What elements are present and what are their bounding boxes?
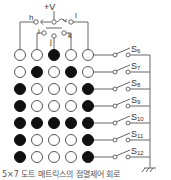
led-off xyxy=(49,152,60,163)
switch-label: S8 xyxy=(131,78,141,88)
led-on xyxy=(66,67,77,78)
switch-contact xyxy=(126,155,130,159)
led-off xyxy=(49,135,60,146)
led-off xyxy=(49,84,60,95)
switch-label: S7 xyxy=(131,61,141,71)
led-off xyxy=(66,101,77,112)
led-off xyxy=(66,50,77,61)
led-on xyxy=(66,118,77,129)
column-selector: +Vhijkl xyxy=(20,2,88,50)
led-on xyxy=(83,152,94,163)
dot-matrix-circuit-diagram: +Vhijkl S6S7S8S9S10S11S12 xyxy=(0,0,171,180)
led-on xyxy=(83,84,94,95)
led-off xyxy=(32,50,43,61)
switch-contact xyxy=(126,138,130,142)
led-on xyxy=(15,135,26,146)
led-off xyxy=(32,152,43,163)
switch-contact xyxy=(126,70,130,74)
switch-contact xyxy=(126,53,130,57)
wire-h xyxy=(20,22,34,50)
led-on xyxy=(15,118,26,129)
led-off xyxy=(49,67,60,78)
led-on xyxy=(83,118,94,129)
common-contact xyxy=(52,20,56,24)
switch-contact xyxy=(126,104,130,108)
selector-label-k: k xyxy=(68,31,73,40)
arrow-left-icon xyxy=(41,20,52,25)
selector-label-i: i xyxy=(38,27,40,36)
contact-k xyxy=(62,31,66,35)
led-on xyxy=(15,152,26,163)
figure-caption: 5×7 도트 매트릭스의 점멸제어 회로 xyxy=(2,170,171,180)
led-on xyxy=(83,101,94,112)
led-matrix xyxy=(15,50,94,163)
contact-j xyxy=(52,34,56,38)
led-on xyxy=(49,118,60,129)
led-off xyxy=(66,84,77,95)
led-on xyxy=(49,50,60,61)
led-off xyxy=(83,50,94,61)
switch-contact xyxy=(126,121,130,125)
led-off xyxy=(15,67,26,78)
led-on xyxy=(15,101,26,112)
contact-l xyxy=(69,20,73,24)
selector-label-h: h xyxy=(29,13,33,22)
led-on xyxy=(15,84,26,95)
led-on xyxy=(32,118,43,129)
switch-label: S11 xyxy=(131,129,144,139)
supply-label: +V xyxy=(44,2,55,12)
led-off xyxy=(49,101,60,112)
led-off xyxy=(66,152,77,163)
selector-label-l: l xyxy=(75,11,77,20)
contact-h xyxy=(34,20,38,24)
switch-label: S12 xyxy=(131,146,144,156)
led-on xyxy=(32,67,43,78)
led-off xyxy=(32,101,43,112)
led-off xyxy=(66,135,77,146)
led-off xyxy=(32,84,43,95)
row-switches: S6S7S8S9S10S11S12 xyxy=(113,44,150,159)
contact-i xyxy=(42,31,46,35)
led-off xyxy=(15,50,26,61)
led-off xyxy=(32,135,43,146)
switch-label: S6 xyxy=(131,44,141,54)
led-off xyxy=(83,67,94,78)
switch-label: S10 xyxy=(131,112,144,122)
arrow-right-icon xyxy=(57,19,66,22)
led-on xyxy=(83,135,94,146)
selector-label-j: j xyxy=(49,37,52,46)
switch-label: S9 xyxy=(131,95,141,105)
wire-l xyxy=(73,22,88,50)
switch-contact xyxy=(126,87,130,91)
